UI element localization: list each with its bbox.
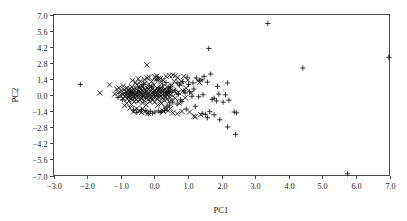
x-tick-label: 5.0 bbox=[317, 182, 327, 191]
plus-marker bbox=[206, 46, 211, 51]
cross-marker bbox=[144, 62, 149, 67]
plus-marker bbox=[194, 75, 199, 80]
y-tick-label: −1.4 bbox=[33, 108, 48, 117]
x-tick-label: −3.0 bbox=[47, 182, 62, 191]
scatter-plot-figure: −3.0−2.0−1.00.01.02.03.04.05.06.07.0 7.0… bbox=[0, 0, 407, 221]
cross-marker bbox=[184, 86, 189, 91]
plus-marker bbox=[193, 104, 198, 109]
plus-marker bbox=[175, 80, 180, 85]
y-tick-label: 0.0 bbox=[37, 92, 47, 101]
series-group-plus bbox=[78, 21, 392, 177]
y-tick-label: −5.6 bbox=[33, 156, 48, 165]
x-tick-label: 4.0 bbox=[284, 182, 294, 191]
plus-marker bbox=[207, 109, 212, 114]
y-tick-label: −4.2 bbox=[33, 140, 48, 149]
cross-marker bbox=[116, 85, 121, 90]
plus-marker bbox=[216, 91, 221, 96]
x-tick-label: −1.0 bbox=[114, 182, 129, 191]
plus-marker bbox=[300, 65, 305, 70]
x-axis-ticks bbox=[55, 176, 391, 180]
y-axis-tick-labels: 7.05.64.22.81.40.0−1.4−2.8−4.2−5.6−7.0 bbox=[33, 12, 48, 182]
cross-marker bbox=[107, 82, 112, 87]
x-axis-tick-labels: −3.0−2.0−1.00.01.02.03.04.05.06.07.0 bbox=[47, 182, 396, 191]
data-points-layer bbox=[78, 21, 392, 177]
cross-marker bbox=[97, 90, 102, 95]
x-tick-label: 2.0 bbox=[217, 182, 227, 191]
x-tick-label: 0.0 bbox=[149, 182, 159, 191]
plus-marker bbox=[78, 82, 83, 87]
plus-marker bbox=[212, 112, 217, 117]
y-tick-label: 2.8 bbox=[37, 60, 47, 69]
plus-marker bbox=[197, 78, 202, 83]
y-tick-label: 4.2 bbox=[37, 44, 47, 53]
cross-marker bbox=[124, 101, 129, 106]
plus-marker bbox=[265, 21, 270, 26]
cross-marker bbox=[183, 95, 188, 100]
x-tick-label: 1.0 bbox=[183, 182, 193, 191]
x-tick-label: 7.0 bbox=[385, 182, 395, 191]
plot-border bbox=[54, 15, 390, 176]
y-tick-label: 7.0 bbox=[37, 12, 47, 21]
y-tick-label: 5.6 bbox=[37, 28, 47, 37]
plus-marker bbox=[223, 92, 228, 97]
cross-marker bbox=[198, 112, 203, 117]
y-tick-label: −7.0 bbox=[33, 173, 48, 182]
plus-marker bbox=[232, 109, 237, 114]
y-tick-label: −2.8 bbox=[33, 124, 48, 133]
plot-frame bbox=[54, 15, 390, 176]
plus-marker bbox=[205, 80, 210, 85]
cross-marker bbox=[185, 78, 190, 83]
plus-marker bbox=[215, 84, 220, 89]
plus-marker bbox=[159, 109, 164, 114]
y-axis-ticks bbox=[50, 16, 54, 177]
plus-marker bbox=[131, 108, 136, 113]
x-tick-label: 3.0 bbox=[250, 182, 260, 191]
x-axis-title: PC1 bbox=[214, 205, 229, 215]
plus-marker bbox=[221, 100, 226, 105]
y-axis-title: PC2 bbox=[10, 88, 20, 103]
y-tick-label: 1.4 bbox=[37, 76, 47, 85]
plus-marker bbox=[233, 132, 238, 137]
plus-marker bbox=[208, 71, 213, 76]
plus-marker bbox=[225, 80, 230, 85]
plus-marker bbox=[234, 110, 239, 115]
plus-marker bbox=[217, 117, 222, 122]
plus-marker bbox=[226, 98, 231, 103]
pca-scatter-chart: −3.0−2.0−1.00.01.02.03.04.05.06.07.0 7.0… bbox=[0, 0, 407, 221]
x-tick-label: −2.0 bbox=[80, 182, 95, 191]
plus-marker bbox=[225, 124, 230, 129]
plus-marker bbox=[152, 109, 157, 114]
plus-marker bbox=[386, 55, 391, 60]
cross-marker bbox=[112, 91, 117, 96]
plus-marker bbox=[191, 86, 196, 91]
x-tick-label: 6.0 bbox=[351, 182, 361, 191]
